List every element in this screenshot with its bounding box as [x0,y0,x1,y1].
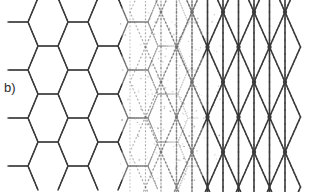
lattice-transition-figure: b) [0,0,318,192]
panel-label-b: b) [4,80,16,96]
lattice-diagram-canvas [0,0,318,192]
